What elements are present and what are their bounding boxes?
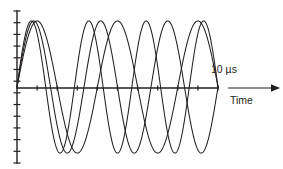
arrow-right-icon bbox=[228, 84, 280, 92]
plot-canvas bbox=[0, 0, 283, 169]
waveform-figure: 10 µs Time bbox=[0, 0, 283, 169]
axes-group bbox=[14, 11, 219, 163]
time-axis-label: Time bbox=[230, 95, 253, 106]
duration-label: 10 µs bbox=[211, 64, 237, 75]
